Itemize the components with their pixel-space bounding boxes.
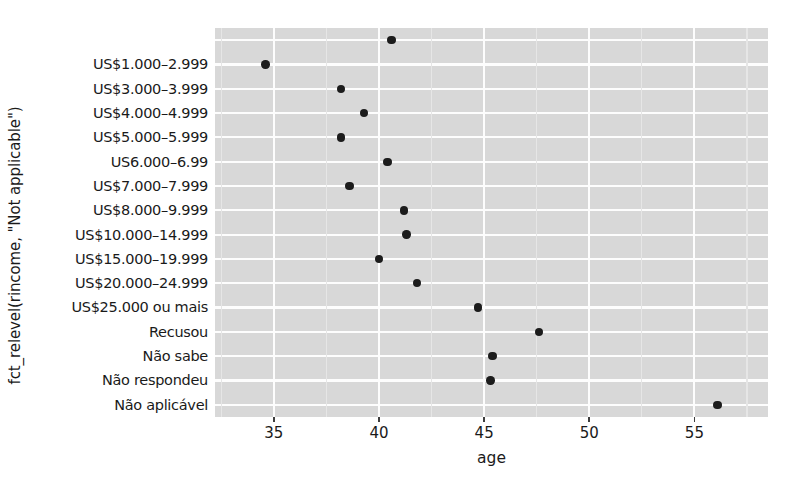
x-axis-tick-label: 35 [244,424,304,442]
data-point [474,303,482,311]
gridline-horizontal [215,39,768,41]
data-point [337,133,345,141]
y-axis-tick-label: Não aplicável [114,393,208,417]
y-axis-tick-label: US$15.000–19.999 [75,247,208,271]
gridline-horizontal [215,185,768,187]
data-point [400,206,408,214]
y-axis-tick-label: US$1.000–2.999 [93,52,208,76]
data-point [345,182,353,190]
data-point [383,158,391,166]
data-point [387,36,395,44]
data-point [413,279,421,287]
x-axis-tick-mark [378,417,380,422]
gridline-horizontal [215,136,768,138]
data-point [535,328,543,336]
data-point [488,352,496,360]
gridline-vertical-major [483,28,485,417]
gridline-horizontal [215,112,768,114]
data-point [486,376,494,384]
gridline-horizontal [215,88,768,90]
y-axis-tick-labels: US$1.000–2.999US$3.000–3.999US$4.000–4.9… [60,28,208,417]
gridline-vertical-major [273,28,275,417]
y-axis-tick-label: Não respondeu [102,368,208,392]
gridline-horizontal [215,161,768,163]
data-point [337,85,345,93]
y-axis-tick-label: US6.000–6.99 [111,150,208,174]
gridline-vertical-minor [536,28,537,417]
y-axis-tick-label: US$25.000 ou mais [71,295,208,319]
y-axis-title: fct_relevel(rincome, "Not applicable") [0,0,30,491]
data-point [375,255,383,263]
gridline-vertical-major [693,28,695,417]
y-axis-tick-label: US$5.000–5.999 [93,125,208,149]
y-axis-tick-label: US$8.000–9.999 [93,198,208,222]
gridline-horizontal [215,258,768,260]
data-point [713,401,721,409]
x-axis-tick-label: 55 [664,424,724,442]
x-axis-tick-label: 50 [559,424,619,442]
gridline-horizontal [215,234,768,236]
data-point [261,60,269,68]
y-axis-tick-label: US$3.000–3.999 [93,77,208,101]
gridline-vertical-major [588,28,590,417]
gridline-vertical-major [378,28,380,417]
y-axis-tick-label: US$20.000–24.999 [75,271,208,295]
gridline-horizontal [215,331,768,333]
gridline-horizontal [215,282,768,284]
y-axis-tick-label: US$10.000–14.999 [75,223,208,247]
y-axis-tick-label: Recusou [149,320,208,344]
x-axis-tick-label: 40 [349,424,409,442]
gridline-horizontal [215,209,768,211]
x-axis-tick-label: 45 [454,424,514,442]
x-axis-tick-mark [483,417,485,422]
x-axis-tick-mark [588,417,590,422]
gridline-horizontal [215,404,768,406]
scatter-plot-figure: fct_relevel(rincome, "Not applicable") U… [0,0,794,491]
x-axis-tick-mark [273,417,275,422]
x-axis-title: age [215,449,768,467]
gridline-vertical-minor [431,28,432,417]
y-axis-tick-label: US$7.000–7.999 [93,174,208,198]
y-axis-tick-label: Não sabe [143,344,208,368]
data-point [360,109,368,117]
gridline-horizontal [215,63,768,65]
data-point [402,230,410,238]
gridline-vertical-minor [326,28,327,417]
y-axis-tick-label: US$4.000–4.999 [93,101,208,125]
gridline-vertical-minor [746,28,747,417]
gridline-vertical-minor [221,28,222,417]
gridline-horizontal [215,306,768,308]
plot-panel [215,28,768,417]
gridline-vertical-minor [641,28,642,417]
x-axis-tick-mark [694,417,696,422]
